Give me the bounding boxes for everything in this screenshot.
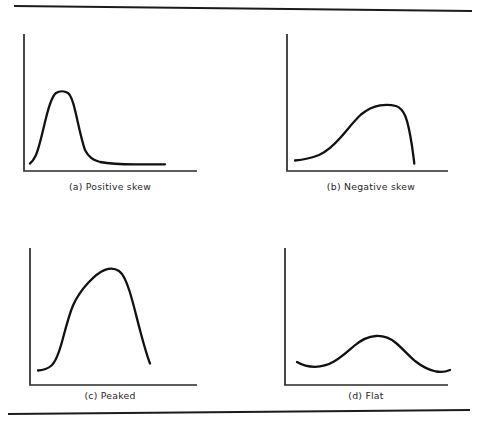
panel-b-caption: (b) Negative skew — [327, 181, 415, 192]
panel-d-curve — [297, 336, 450, 372]
panel-peaked: (c) Peaked — [30, 248, 197, 401]
panel-negative-skew: (b) Negative skew — [287, 34, 448, 192]
top-horizontal-rule — [14, 6, 472, 11]
panel-c-curve — [38, 269, 150, 371]
panel-positive-skew: (a) Positive skew — [24, 34, 197, 192]
panel-a-curve — [30, 91, 165, 164]
panel-c-caption: (c) Peaked — [84, 390, 135, 401]
panel-d-caption: (d) Flat — [348, 390, 383, 401]
panel-d-axes — [285, 248, 448, 385]
panel-a-caption: (a) Positive skew — [69, 181, 151, 192]
panel-flat: (d) Flat — [285, 248, 450, 401]
figure-container: (a) Positive skew (b) Negative skew (c) … — [0, 0, 486, 429]
bottom-horizontal-rule — [8, 410, 470, 414]
distribution-shapes-figure: (a) Positive skew (b) Negative skew (c) … — [0, 0, 486, 429]
panel-b-curve — [295, 105, 414, 164]
panel-b-axes — [287, 34, 448, 171]
